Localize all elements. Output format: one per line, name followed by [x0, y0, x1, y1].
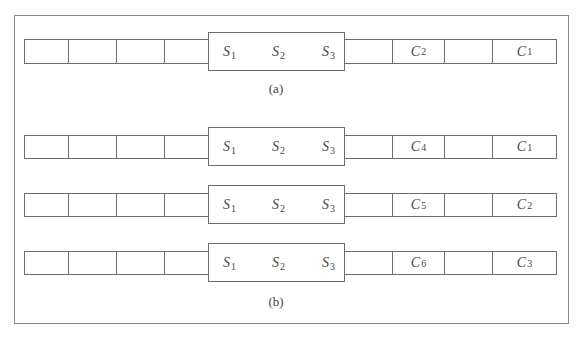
tape-cell-c2: C2 [392, 39, 445, 64]
tape-cell [164, 135, 209, 159]
tape-cell [68, 135, 117, 159]
cell-base: C [411, 255, 420, 271]
tape-cell [24, 193, 69, 217]
cell-base: C [411, 197, 420, 213]
symbol-base: S [322, 138, 329, 153]
symbol-sub: 1 [231, 260, 236, 271]
tape-cell [164, 251, 209, 275]
symbol-base: S [272, 138, 279, 153]
tape-cell [444, 251, 493, 275]
cell-base: C [411, 139, 420, 155]
symbol-sub: 2 [280, 144, 285, 155]
tape-cell-c6: C6 [392, 251, 445, 275]
symbol-base: S [223, 254, 230, 269]
cell-sub: 2 [421, 46, 426, 57]
symbol-sub: 1 [231, 202, 236, 213]
sliding-window: S1 S2 S3 [208, 243, 345, 282]
symbol-base: S [223, 196, 230, 211]
symbol-sub: 2 [280, 260, 285, 271]
tape-cell [344, 251, 393, 275]
cell-sub: 3 [527, 258, 532, 269]
window-symbol-s3: S3 [322, 254, 335, 271]
window-symbol-s2: S2 [272, 254, 285, 271]
cell-base: C [517, 44, 526, 60]
tape-cell-c1: C1 [492, 39, 557, 64]
window-symbol-s1: S1 [223, 43, 236, 60]
tape-cell [344, 39, 393, 64]
caption-b: (b) [268, 294, 283, 310]
cell-base: C [517, 197, 526, 213]
cell-sub: 5 [421, 200, 426, 211]
window-symbol-s2: S2 [272, 43, 285, 60]
tape-cell [444, 193, 493, 217]
tape-cell [444, 39, 493, 64]
symbol-base: S [272, 43, 279, 58]
cell-base: C [517, 255, 526, 271]
symbol-base: S [223, 43, 230, 58]
tape-cell-c1: C1 [492, 135, 557, 159]
symbol-sub: 1 [231, 144, 236, 155]
symbol-sub: 2 [280, 202, 285, 213]
tape-cell [116, 251, 165, 275]
window-symbol-s3: S3 [322, 138, 335, 155]
symbol-sub: 3 [330, 260, 335, 271]
tape-cell [24, 251, 69, 275]
tape-cell [24, 135, 69, 159]
cell-sub: 6 [421, 258, 426, 269]
symbol-base: S [223, 138, 230, 153]
symbol-sub: 3 [330, 49, 335, 60]
tape-cell-c2: C2 [492, 193, 557, 217]
tape-cell [116, 39, 165, 64]
tape-cell-c3: C3 [492, 251, 557, 275]
cell-base: C [411, 44, 420, 60]
tape-cell [68, 39, 117, 64]
sliding-window: S1 S2 S3 [208, 32, 345, 71]
cell-sub: 2 [527, 200, 532, 211]
tape-cell [344, 135, 393, 159]
window-symbol-s3: S3 [322, 196, 335, 213]
window-symbol-s1: S1 [223, 196, 236, 213]
symbol-base: S [322, 254, 329, 269]
tape-cell [68, 193, 117, 217]
tape-cell [444, 135, 493, 159]
symbol-base: S [272, 196, 279, 211]
window-symbol-s2: S2 [272, 196, 285, 213]
symbol-sub: 3 [330, 144, 335, 155]
window-symbol-s3: S3 [322, 43, 335, 60]
tape-cell-c5: C5 [392, 193, 445, 217]
symbol-sub: 2 [280, 49, 285, 60]
window-symbol-s2: S2 [272, 138, 285, 155]
tape-cell [24, 39, 69, 64]
tape-cell [164, 193, 209, 217]
window-symbol-s1: S1 [223, 138, 236, 155]
tape-cell [344, 193, 393, 217]
symbol-sub: 1 [231, 49, 236, 60]
tape-cell-c4: C4 [392, 135, 445, 159]
tape-cell [68, 251, 117, 275]
tape-cell [116, 135, 165, 159]
sliding-window: S1 S2 S3 [208, 127, 345, 166]
window-symbol-s1: S1 [223, 254, 236, 271]
symbol-sub: 3 [330, 202, 335, 213]
cell-sub: 1 [527, 142, 532, 153]
cell-sub: 1 [527, 46, 532, 57]
cell-sub: 4 [421, 142, 426, 153]
tape-cell [164, 39, 209, 64]
symbol-base: S [322, 43, 329, 58]
cell-base: C [517, 139, 526, 155]
symbol-base: S [272, 254, 279, 269]
caption-a: (a) [269, 81, 283, 97]
symbol-base: S [322, 196, 329, 211]
sliding-window: S1 S2 S3 [208, 185, 345, 224]
tape-cell [116, 193, 165, 217]
